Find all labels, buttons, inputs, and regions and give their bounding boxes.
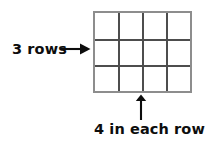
grid-array [93,11,192,93]
rows-label: 3 rows [12,41,67,57]
grid-vertical-line [142,13,144,91]
columns-label: 4 in each row [94,121,205,137]
grid-lines [95,13,190,91]
grid-horizontal-line [95,39,190,41]
grid-vertical-line [166,13,168,91]
array-diagram-canvas: 3 rows 4 in each row [0,0,208,145]
arrow-right-icon [61,41,91,57]
grid-vertical-line [118,13,120,91]
arrow-up-icon [132,94,150,120]
grid-horizontal-line [95,65,190,67]
